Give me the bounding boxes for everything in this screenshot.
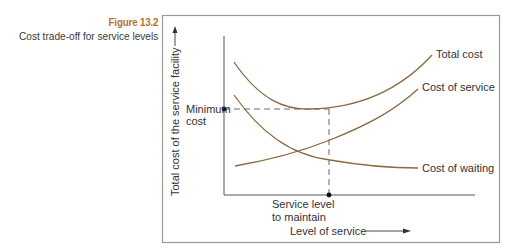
service-level-label-line2: to maintain	[272, 211, 326, 223]
cost-of-waiting-label: Cost of waiting	[422, 162, 494, 174]
chart: Total cost of the service facility Total…	[0, 0, 518, 252]
x-axis-label: Level of service	[290, 225, 411, 237]
service-level-dot	[327, 193, 332, 198]
total-cost-curve	[234, 55, 432, 109]
min-cost-label-line1: Minimum	[186, 103, 231, 115]
min-cost-label-line2: cost	[186, 115, 206, 127]
total-cost-label: Total cost	[436, 48, 482, 60]
svg-text:Level of service: Level of service	[290, 225, 366, 237]
y-arrowhead-icon	[173, 26, 178, 33]
service-level-label-line1: Service level	[272, 198, 334, 210]
y-axis-label: Total cost of the service facility	[169, 26, 181, 196]
svg-text:Total cost of the service faci: Total cost of the service facility	[169, 47, 181, 196]
cost-of-service-label: Cost of service	[422, 81, 495, 93]
x-arrowhead-icon	[403, 229, 411, 234]
cost-of-waiting-curve	[234, 95, 418, 168]
